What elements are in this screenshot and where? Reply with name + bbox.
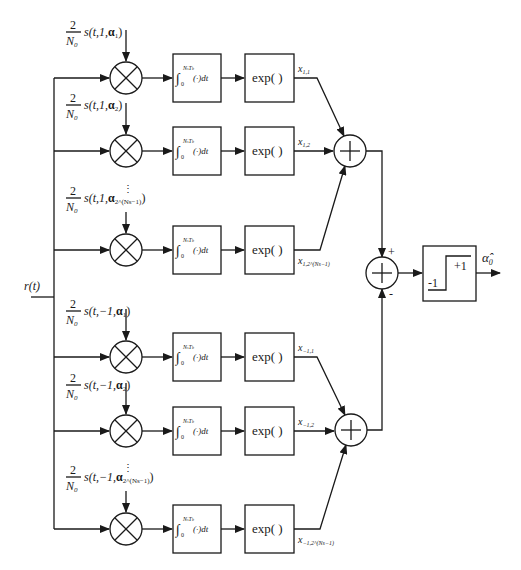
fraction-numerator: 2 [70, 18, 76, 32]
integrand-label: (·)dt [193, 146, 209, 156]
vertical-ellipsis-icon: ⋮ [123, 183, 133, 194]
exp-label: exp( ) [252, 70, 283, 85]
exp-to-adder-wire [294, 357, 345, 415]
integral-lower-limit: 0 [181, 532, 184, 538]
fraction-numerator: 2 [70, 91, 76, 105]
decision-low-label: -1 [428, 276, 438, 290]
integral-lower-limit: 0 [181, 253, 184, 259]
fraction-denominator: N0 [65, 34, 78, 49]
reference-signal-label: s(t,−1,α1) [84, 304, 130, 319]
branch-output-label: x−1,2^(Ns−1) [297, 534, 334, 547]
fraction-denominator: N0 [65, 313, 78, 328]
integral-upper-limit: NsTb [182, 516, 194, 522]
diagram-svg: r(t) 2N0s(t,1,α1)∫NsTb0(·)dtexp( )x1,12N… [0, 0, 521, 570]
branch-1: 2N0s(t,1,α1)∫NsTb0(·)dtexp( )x1,1 [54, 18, 344, 136]
adder-upper [334, 135, 382, 257]
fraction-numerator: 2 [70, 371, 76, 385]
branch-output-label: x−1,2 [297, 416, 314, 428]
integral-lower-limit: 0 [181, 81, 184, 87]
decision-block: -1 +1 α̂0 [423, 246, 500, 301]
fraction-numerator: 2 [70, 463, 76, 477]
exp-label: exp( ) [252, 242, 283, 257]
integrand-label: (·)dt [193, 73, 209, 83]
fraction-denominator: N0 [65, 479, 78, 494]
exp-label: exp( ) [252, 423, 283, 438]
branch-output-label: x1,2^(Ns−1) [297, 255, 330, 268]
branch-output-label: x−1,1 [297, 342, 314, 354]
integrand-label: (·)dt [193, 352, 209, 362]
integral-lower-limit: 0 [181, 154, 184, 160]
fraction-numerator: 2 [70, 297, 76, 311]
fraction-denominator: N0 [65, 200, 78, 215]
branches: 2N0s(t,1,α1)∫NsTb0(·)dtexp( )x1,12N0s(t,… [54, 18, 346, 553]
branch-2: 2N0s(t,1,α2)∫NsTb0(·)dtexp( )x1,2 [54, 91, 333, 175]
reference-signal-label: s(t,−1,α2^(Ns−1)) [84, 470, 154, 485]
input-label: r(t) [24, 279, 40, 293]
adder-upper-output-wire [366, 151, 382, 257]
fraction-numerator: 2 [70, 184, 76, 198]
exp-label: exp( ) [252, 143, 283, 158]
reference-signal-label: s(t,1,α1) [84, 25, 122, 40]
branch-4: 2N0s(t,−1,α1)∫NsTb0(·)dtexp( )x−1,1 [54, 297, 345, 415]
branch-output-label: x1,2 [297, 136, 310, 148]
integral-upper-limit: NsTb [182, 65, 194, 71]
exp-label: exp( ) [252, 349, 283, 364]
decision-box [423, 246, 476, 301]
exp-label: exp( ) [252, 521, 283, 536]
integral-upper-limit: NsTb [182, 237, 194, 243]
integrand-label: (·)dt [193, 426, 209, 436]
receiver-block-diagram: r(t) 2N0s(t,1,α1)∫NsTb0(·)dtexp( )x1,12N… [0, 0, 521, 570]
plus-sign-label: + [388, 245, 395, 259]
output-label: α̂0 [482, 250, 494, 267]
vertical-ellipsis-icon: ⋮ [123, 462, 133, 473]
branch-3: ⋮2N0s(t,1,α2^(Ns−1))∫NsTb0(·)dtexp( )x1,… [54, 166, 345, 274]
fraction-denominator: N0 [65, 107, 78, 122]
reference-signal-label: s(t,1,α2^(Ns−1)) [84, 191, 145, 206]
branch-output-label: x1,1 [297, 63, 310, 75]
integral-lower-limit: 0 [181, 434, 184, 440]
integral-lower-limit: 0 [181, 360, 184, 366]
integrand-label: (·)dt [193, 245, 209, 255]
branch-6: ⋮2N0s(t,−1,α2^(Ns−1))∫NsTb0(·)dtexp( )x−… [54, 445, 346, 553]
adder-final: + - [366, 245, 422, 301]
reference-signal-label: s(t,1,α2) [84, 98, 122, 113]
decision-high-label: +1 [454, 259, 467, 273]
integral-upper-limit: NsTb [182, 418, 194, 424]
exp-to-adder-wire [294, 166, 345, 250]
adder-lower [335, 289, 382, 446]
minus-sign-label: - [389, 287, 393, 301]
fraction-denominator: N0 [65, 387, 78, 402]
adder-lower-output-wire [367, 289, 382, 430]
integral-upper-limit: NsTb [182, 138, 194, 144]
exp-to-adder-wire [294, 445, 346, 529]
reference-signal-label: s(t,−1,α2) [84, 378, 130, 393]
integral-upper-limit: NsTb [182, 344, 194, 350]
input-signal: r(t) [24, 78, 54, 529]
integrand-label: (·)dt [193, 524, 209, 534]
branch-5: 2N0s(t,−1,α2)∫NsTb0(·)dtexp( )x−1,2 [54, 371, 334, 455]
exp-to-adder-wire [294, 78, 344, 136]
